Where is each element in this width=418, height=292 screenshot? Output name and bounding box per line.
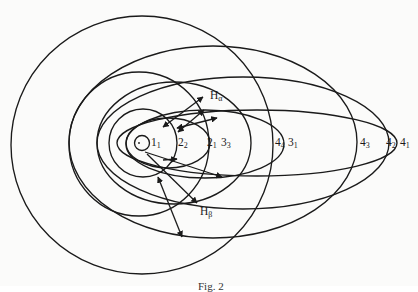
label-1-1: 11 (151, 137, 161, 150)
h-alpha-transition-arrow (145, 152, 222, 177)
orbit-group (11, 16, 397, 274)
figure-caption: Fig. 2 (198, 280, 224, 292)
h-beta-transition-arrow (158, 177, 182, 237)
orbit-2-2 (109, 109, 177, 177)
label-4-4: 44 (275, 137, 285, 150)
label-h-alpha: Hα (210, 90, 223, 103)
label-h-beta: Hβ (200, 206, 212, 219)
label-4-1: 41 (400, 137, 410, 150)
label-4-3: 43 (360, 137, 370, 150)
orbit-4-2 (97, 77, 389, 209)
nucleus-dot (138, 142, 140, 144)
label-2-2: 22 (178, 137, 188, 150)
orbit-4-4 (11, 16, 273, 274)
label-4-2: 42 (386, 137, 396, 150)
label-2-1: 21 (207, 137, 217, 150)
orbit-1-1 (135, 136, 150, 151)
label-3-1: 31 (288, 137, 298, 150)
label-3-3: 33 (221, 137, 231, 150)
